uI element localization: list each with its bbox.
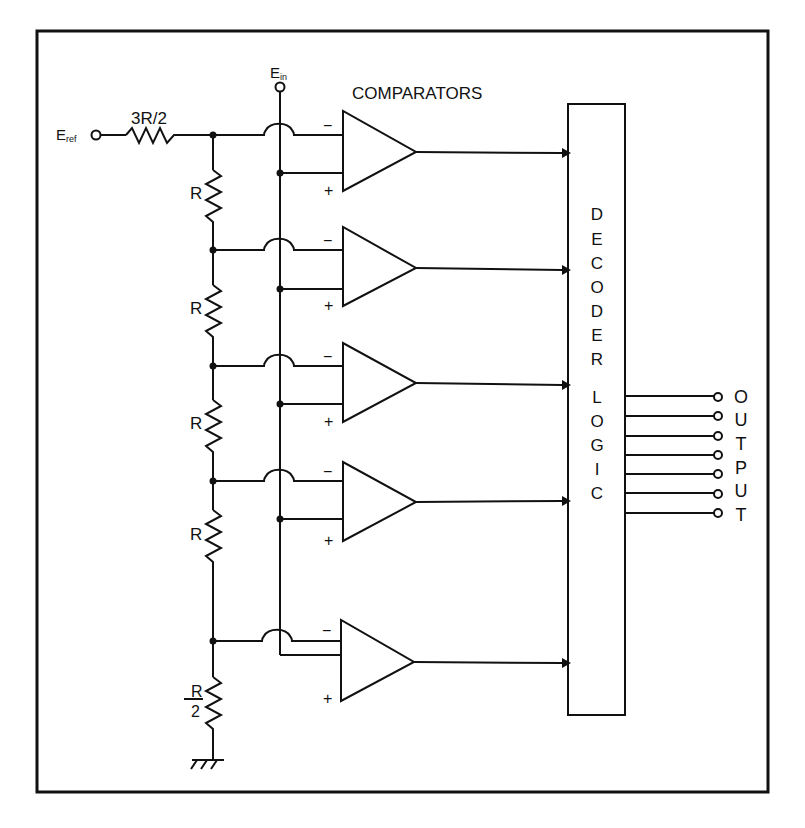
- arrow-right-icon: [562, 380, 571, 390]
- resistor-r2-label: R: [190, 299, 202, 318]
- ground-icon: [191, 760, 224, 769]
- svg-text:−: −: [323, 232, 332, 249]
- comparator-4-triangle-icon: [343, 462, 416, 541]
- svg-text:C: C: [591, 484, 603, 503]
- output-terminal: [714, 412, 722, 420]
- svg-text:T: T: [736, 505, 747, 525]
- eref-label: Eref: [56, 126, 77, 144]
- svg-text:U: U: [735, 410, 748, 430]
- comparator-3-triangle-icon: [343, 343, 416, 422]
- resistor-r-half-icon: [206, 677, 221, 760]
- resistor-r1-label: R: [190, 184, 202, 203]
- decoder-logic-block: [568, 104, 625, 715]
- comparator-5-triangle-icon: [341, 620, 414, 701]
- svg-text:D: D: [591, 205, 603, 224]
- resistor-r3-label: R: [190, 414, 202, 433]
- resistor-ladder: [206, 135, 221, 760]
- comparator-3: − +: [210, 343, 572, 430]
- svg-text:O: O: [590, 278, 603, 297]
- svg-text:O: O: [590, 412, 603, 431]
- resistor-half-numerator: R: [191, 683, 203, 700]
- svg-text:−: −: [323, 463, 332, 480]
- svg-text:−: −: [323, 348, 332, 365]
- svg-text:C: C: [591, 254, 603, 273]
- arrow-right-icon: [562, 658, 571, 668]
- output-terminal: [714, 509, 722, 517]
- comparator-2: − +: [210, 227, 572, 314]
- svg-text:U: U: [735, 481, 748, 501]
- arrow-right-icon: [562, 148, 571, 158]
- comparator-5: − +: [210, 620, 572, 707]
- svg-text:T: T: [736, 434, 747, 454]
- comparator-4: − +: [210, 462, 572, 549]
- svg-text:P: P: [735, 458, 747, 478]
- output-lines: [625, 393, 722, 517]
- resistor-3r2-icon: [126, 128, 215, 143]
- output-terminal: [714, 393, 722, 401]
- output-terminal: [714, 470, 722, 478]
- flash-adc-diagram: Eref 3R/2 Ein COMPARATORS R R R R R 2: [0, 0, 805, 828]
- svg-text:+: +: [324, 182, 333, 199]
- svg-text:−: −: [322, 622, 331, 639]
- resistor-half-denominator: 2: [191, 703, 200, 720]
- comparator-2-triangle-icon: [343, 227, 416, 306]
- arrow-right-icon: [562, 496, 571, 506]
- output-terminal: [714, 490, 722, 498]
- resistor-r3-icon: [206, 400, 221, 481]
- svg-text:+: +: [324, 297, 333, 314]
- output-label: O U T P U T: [734, 387, 748, 525]
- svg-text:E: E: [591, 326, 602, 345]
- eref-terminal: [92, 131, 101, 140]
- resistor-r4-icon: [206, 510, 221, 641]
- decoder-label: D E C O D E R L O G I C: [590, 205, 603, 503]
- svg-text:I: I: [595, 460, 600, 479]
- svg-text:+: +: [324, 413, 333, 430]
- resistor-r1-icon: [206, 170, 221, 250]
- comparators-label: COMPARATORS: [352, 84, 482, 103]
- arrow-right-icon: [562, 265, 571, 275]
- svg-text:E: E: [591, 230, 602, 249]
- comparator-1: − +: [210, 111, 572, 199]
- ein-label: Ein: [270, 64, 287, 82]
- svg-text:+: +: [323, 690, 332, 707]
- svg-text:D: D: [591, 302, 603, 321]
- ein-terminal: [276, 83, 285, 92]
- output-terminal: [714, 432, 722, 440]
- svg-text:G: G: [590, 436, 603, 455]
- svg-text:−: −: [323, 117, 332, 134]
- svg-text:L: L: [592, 388, 601, 407]
- svg-text:+: +: [324, 532, 333, 549]
- comparator-1-triangle-icon: [343, 111, 416, 191]
- resistor-3r2-label: 3R/2: [131, 109, 167, 128]
- resistor-r2-icon: [206, 285, 221, 366]
- svg-text:O: O: [734, 387, 748, 407]
- output-terminal: [714, 451, 722, 459]
- svg-text:R: R: [591, 350, 603, 369]
- resistor-r4-label: R: [190, 525, 202, 544]
